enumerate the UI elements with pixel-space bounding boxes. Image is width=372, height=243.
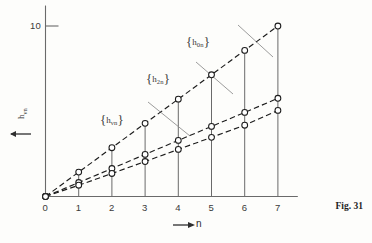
right-arrow-icon [170,219,196,231]
x-tick-label-2: 2 [109,202,114,213]
series-label-sub: 0n [197,41,204,48]
x-tick-label-5: 5 [209,202,214,213]
y-tick-label-10: 10 [30,20,41,31]
y-axis-label-main: h [16,114,26,119]
up-arrow-icon [9,128,35,140]
y-axis-label-sub: νn [21,108,28,114]
x-tick-label-4: 4 [175,202,180,213]
series-label-h2n: {h2n} [146,71,170,87]
axis-lines [46,6,298,197]
x-axis-label: n [196,218,202,229]
brace-close-icon: } [164,71,170,86]
figure-container: 10 hνn 01234567 n {h0n}{h2n}{hνn} Fig. 3… [0,0,372,243]
series-label-hvn: {hνn} [100,112,124,128]
x-tick-label-3: 3 [142,202,147,213]
brace-close-icon: } [204,34,210,49]
series-label-h0n: {h0n} [186,34,210,50]
brace-close-icon: } [117,112,123,127]
series-label-sub: 2n [157,78,164,85]
x-tick-label-0: 0 [43,202,48,213]
x-tick-label-1: 1 [76,202,81,213]
x-tick-label-7: 7 [275,202,280,213]
x-tick-label-6: 6 [242,202,247,213]
figure-caption: Fig. 31 [336,201,363,211]
